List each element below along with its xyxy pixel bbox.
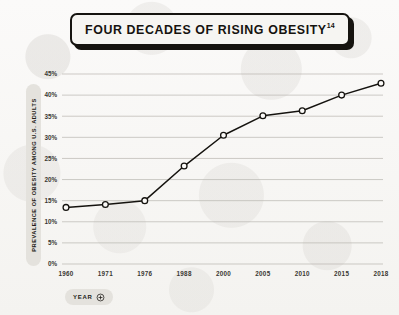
y-tick-label: 25% [44,155,57,162]
data-point-markers [63,80,384,210]
data-point-marker [102,202,108,208]
x-tick-label: 1976 [137,270,152,277]
y-tick-label: 45% [44,70,57,77]
x-tick-label: 2018 [373,270,388,277]
data-point-marker [260,113,266,119]
obesity-trend-line [66,83,381,207]
y-axis-tick-labels: 0%5%10%15%20%25%30%35%40%45% [44,70,57,267]
y-tick-label: 15% [44,197,57,204]
x-tick-label: 1960 [58,270,73,277]
data-point-marker [181,163,187,169]
data-point-marker [378,80,384,86]
x-tick-label: 1971 [98,270,113,277]
y-tick-label: 20% [44,176,57,183]
x-tick-label: 1988 [177,270,192,277]
y-tick-label: 10% [44,218,57,225]
x-axis-tick-labels: 196019711976198820002005201020152018 [58,270,388,277]
x-tick-label: 2010 [295,270,310,277]
plot-area: 0%5%10%15%20%25%30%35%40%45% 19601971197… [0,0,399,315]
x-tick-label: 2000 [216,270,231,277]
y-tick-label: 40% [44,91,57,98]
data-point-marker [63,205,69,211]
y-tick-label: 5% [48,239,58,246]
x-tick-label: 2015 [334,270,349,277]
y-tick-label: 35% [44,113,57,120]
y-tick-label: 30% [44,134,57,141]
data-point-marker [299,108,305,114]
y-tick-label: 0% [48,260,58,267]
gridlines [62,74,383,264]
x-tick-label: 2005 [255,270,270,277]
data-point-marker [221,132,227,138]
data-point-marker [142,198,148,204]
obesity-line-chart: FOUR DECADES OF RISING OBESITY14 PREVALE… [0,0,399,315]
data-point-marker [339,92,345,98]
